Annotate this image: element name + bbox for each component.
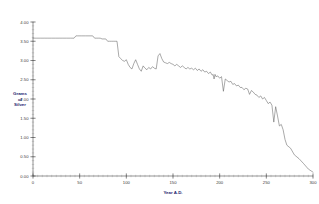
x-tick-label: 50 — [77, 180, 82, 185]
y-tick-label: 3.00 — [20, 58, 29, 63]
x-axis-title: Year A.D. — [163, 190, 182, 195]
x-tick-label: 250 — [263, 180, 271, 185]
x-tick-label: 200 — [216, 180, 224, 185]
y-tick-label: 1.00 — [20, 135, 29, 140]
y-axis-title-line: Silver — [14, 102, 26, 107]
x-tick-label: 100 — [123, 180, 131, 185]
y-tick-label: 0.50 — [20, 154, 29, 159]
chart-container: 0.000.501.001.502.002.503.003.504.00 050… — [0, 0, 319, 204]
y-tick-label: 1.50 — [20, 116, 29, 121]
y-tick-label: 2.50 — [20, 77, 29, 82]
silver-content-line-chart: 0.000.501.001.502.002.503.003.504.00 050… — [0, 0, 319, 204]
y-tick-label: 3.50 — [20, 39, 29, 44]
x-tick-label: 150 — [170, 180, 178, 185]
x-tick-label: 300 — [310, 180, 318, 185]
y-tick-label: 0.00 — [20, 174, 29, 179]
chart-background — [0, 0, 319, 204]
y-tick-label: 4.00 — [20, 20, 29, 25]
